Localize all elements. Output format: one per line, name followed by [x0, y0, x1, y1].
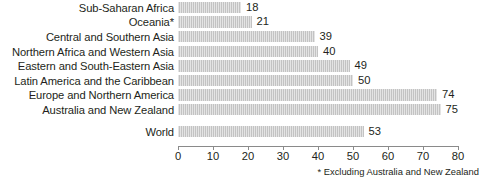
bar	[178, 104, 441, 115]
category-label: Oceania*	[4, 16, 174, 28]
x-axis-tick-label: 80	[452, 150, 464, 163]
bar	[178, 16, 252, 27]
chart-row: Eastern and South-Eastern Asia49	[0, 59, 484, 74]
bar-fill	[178, 60, 350, 71]
bar	[178, 126, 364, 137]
bar-fill	[178, 104, 441, 115]
category-label: World	[4, 126, 174, 138]
chart-row: Oceania*21	[0, 15, 484, 30]
bar-fill	[178, 75, 353, 86]
x-axis-tick-label: 10	[207, 150, 219, 163]
bar	[178, 60, 350, 71]
bar-value-label: 18	[246, 1, 258, 14]
bar	[178, 31, 315, 42]
chart-row: Northern Africa and Western Asia40	[0, 44, 484, 59]
bar	[178, 46, 318, 57]
x-axis-tick-label: 20	[242, 150, 254, 163]
bar-value-label: 40	[323, 45, 335, 58]
bar-value-label: 49	[355, 59, 367, 72]
x-axis-tick-label: 60	[382, 150, 394, 163]
chart-footnote: * Excluding Australia and New Zealand	[317, 166, 479, 177]
x-axis-tick-label: 30	[277, 150, 289, 163]
bar	[178, 75, 353, 86]
category-label: Sub-Saharan Africa	[4, 2, 174, 14]
x-axis-tick-label: 50	[347, 150, 359, 163]
bar-value-label: 39	[320, 30, 332, 43]
bar-value-label: 53	[369, 125, 381, 138]
chart-row: Australia and New Zealand75	[0, 103, 484, 118]
bar-fill	[178, 46, 318, 57]
category-label: Northern Africa and Western Asia	[4, 46, 174, 58]
chart-plot-area: Sub-Saharan Africa18Oceania*21Central an…	[0, 0, 484, 146]
bar-value-label: 74	[442, 88, 454, 101]
category-label: Europe and Northern America	[4, 89, 174, 101]
bar-chart: Sub-Saharan Africa18Oceania*21Central an…	[0, 0, 484, 181]
chart-row: Latin America and the Caribbean50	[0, 74, 484, 89]
bar-value-label: 75	[446, 103, 458, 116]
category-label: Central and Southern Asia	[4, 31, 174, 43]
bar-fill	[178, 126, 364, 137]
bar	[178, 89, 437, 100]
bar-value-label: 50	[358, 74, 370, 87]
chart-row: Sub-Saharan Africa18	[0, 1, 484, 16]
x-axis-tick-label: 70	[417, 150, 429, 163]
bar-fill	[178, 31, 315, 42]
category-label: Latin America and the Caribbean	[4, 75, 174, 87]
chart-row: Central and Southern Asia39	[0, 30, 484, 45]
bar-value-label: 21	[257, 15, 269, 28]
x-axis-tick-label: 0	[175, 150, 181, 163]
chart-row: Europe and Northern America74	[0, 88, 484, 103]
bar	[178, 2, 241, 13]
bar-fill	[178, 89, 437, 100]
x-axis-tick-label: 40	[312, 150, 324, 163]
chart-row: World53	[0, 125, 484, 140]
category-label: Eastern and South-Eastern Asia	[4, 60, 174, 72]
bar-fill	[178, 2, 241, 13]
bar-fill	[178, 16, 252, 27]
category-label: Australia and New Zealand	[4, 104, 174, 116]
